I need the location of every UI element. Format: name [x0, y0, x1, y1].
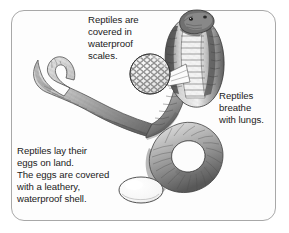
- caption-eggs: Reptiles lay their eggs on land. The egg…: [17, 145, 133, 205]
- figure-root: Reptiles are covered in waterproof scale…: [0, 0, 289, 233]
- caption-lungs: Reptiles breathe with lungs.: [219, 90, 287, 126]
- coil-inner-hole: [172, 141, 205, 172]
- caption-scales: Reptiles are covered in waterproof scale…: [88, 14, 174, 62]
